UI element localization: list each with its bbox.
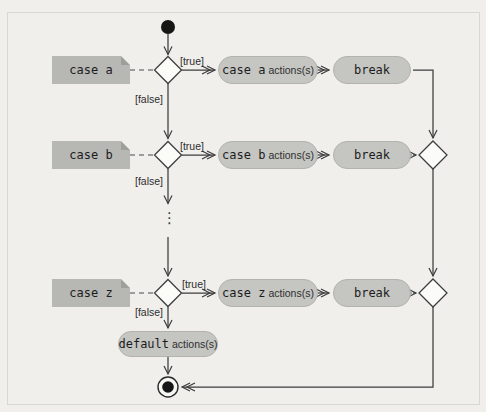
break-state-b: break <box>333 141 411 169</box>
guard-true-b: [true] <box>180 140 204 152</box>
initial-node <box>161 20 175 34</box>
decision-diamond-case-b <box>155 142 182 169</box>
note-case-a-label: case a <box>69 63 112 77</box>
activity-diagram-figure: case a case b case z case a actions(s) c… <box>0 0 486 412</box>
merge-diamond-2 <box>419 279 447 307</box>
action-default-code: default <box>118 337 169 351</box>
flow-merge-2-to-final <box>182 307 433 387</box>
break-state-a: break <box>333 56 411 84</box>
decision-diamond-case-z <box>155 280 182 307</box>
break-state-b-label: break <box>354 148 390 162</box>
guard-true-z: [true] <box>182 278 206 290</box>
break-state-z: break <box>333 279 411 307</box>
guard-false-a: [false] <box>125 93 163 105</box>
action-case-a: case a actions(s) <box>218 56 318 84</box>
note-case-z: case z <box>52 279 130 307</box>
guard-true-a: [true] <box>180 55 204 67</box>
break-state-a-label: break <box>354 63 390 77</box>
action-case-a-code: case a <box>222 63 265 77</box>
action-case-z: case z actions(s) <box>218 279 318 307</box>
action-default: default actions(s) <box>118 331 218 357</box>
action-default-suffix: actions(s) <box>172 338 218 350</box>
action-case-z-suffix: actions(s) <box>268 287 314 299</box>
action-case-z-code: case z <box>222 286 265 300</box>
note-case-z-label: case z <box>69 286 112 300</box>
guard-false-z: [false] <box>125 306 163 318</box>
more-cases-ellipsis: ⋮ <box>162 209 174 228</box>
action-case-b-code: case b <box>222 148 265 162</box>
note-case-b-label: case b <box>69 148 112 162</box>
final-node-inner <box>162 381 174 393</box>
decision-diamond-case-a <box>155 57 182 84</box>
guard-false-b: [false] <box>125 175 163 187</box>
flow-break-a-to-merge-1 <box>413 70 433 138</box>
action-case-b-suffix: actions(s) <box>268 149 314 161</box>
action-case-a-suffix: actions(s) <box>268 64 314 76</box>
note-case-a: case a <box>52 56 130 84</box>
merge-diamond-1 <box>419 141 447 169</box>
action-case-b: case b actions(s) <box>218 141 318 169</box>
break-state-z-label: break <box>354 286 390 300</box>
note-case-b: case b <box>52 141 130 169</box>
